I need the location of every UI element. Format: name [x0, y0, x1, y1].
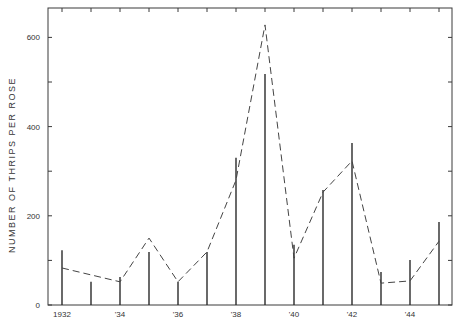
x-tick-label: 1932 [53, 310, 71, 319]
x-tick-label: '42 [347, 310, 358, 319]
dashed-line-series [62, 25, 439, 283]
y-axis-label: NUMBER OF THRIPS PER ROSE [7, 77, 17, 253]
x-tick-label: '40 [289, 310, 300, 319]
x-tick-label: '38 [231, 310, 242, 319]
x-tick-labels: 1932'34'36'38'40'42'44 [53, 310, 416, 319]
plot-frame [48, 8, 452, 305]
y-tick-label: 600 [27, 33, 41, 42]
dashed-trend-line [62, 25, 439, 283]
thrips-chart: 0200400600 1932'34'36'38'40'42'44 NUMBER… [0, 0, 460, 323]
y-tick-label: 400 [27, 123, 41, 132]
y-tick-labels: 0200400600 [27, 33, 41, 310]
bar-spikes [62, 74, 439, 305]
x-tick-label: '36 [173, 310, 184, 319]
y-tick-label: 200 [27, 212, 41, 221]
axis-ticks [48, 8, 452, 305]
x-tick-label: '44 [405, 310, 416, 319]
y-tick-label: 0 [36, 301, 41, 310]
x-tick-label: '34 [115, 310, 126, 319]
